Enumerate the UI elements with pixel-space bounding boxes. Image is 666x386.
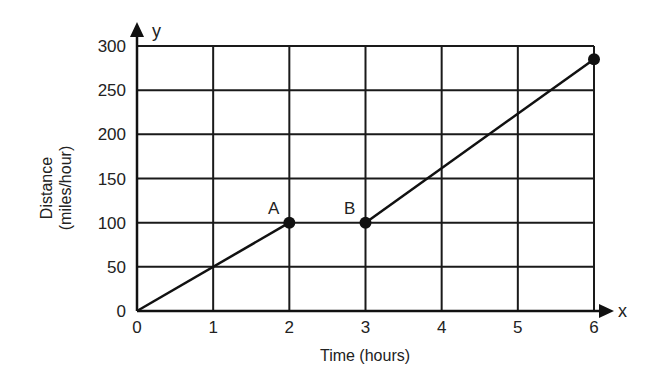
y-tick-label: 200	[98, 125, 126, 144]
x-tick-label: 0	[132, 318, 141, 337]
y-tick-label: 50	[107, 258, 126, 277]
y-axis-label-line2: (miles/hour)	[57, 146, 74, 230]
y-axis-label-line1: Distance	[38, 157, 55, 219]
y-tick-label: 300	[98, 37, 126, 56]
tick-labels: 0123456050100150200250300	[98, 37, 599, 337]
y-tick-label: 100	[98, 214, 126, 233]
x-axis-letter: x	[618, 301, 627, 321]
data-point-marker	[283, 217, 295, 229]
x-tick-label: 2	[285, 318, 294, 337]
y-axis-arrow-icon	[130, 22, 144, 37]
x-tick-label: 5	[513, 318, 522, 337]
x-tick-label: 4	[437, 318, 446, 337]
data-point-marker	[360, 217, 372, 229]
x-tick-label: 1	[208, 318, 217, 337]
x-tick-label: 3	[361, 318, 370, 337]
point-a-label: A	[268, 199, 280, 218]
y-axis-letter: y	[152, 21, 161, 41]
x-axis-arrow-icon	[599, 304, 614, 318]
line-segment-2	[366, 59, 595, 222]
data-series	[137, 53, 600, 311]
y-tick-label: 0	[117, 302, 126, 321]
x-axis-label: Time (hours)	[320, 347, 410, 364]
data-point-marker	[588, 53, 600, 65]
y-tick-label: 250	[98, 81, 126, 100]
y-tick-label: 150	[98, 170, 126, 189]
axes: y x	[130, 21, 627, 321]
point-b-label: B	[344, 199, 355, 218]
x-tick-label: 6	[589, 318, 598, 337]
distance-time-chart: y x 0123456050100150200250300 Time (hour…	[0, 0, 666, 386]
